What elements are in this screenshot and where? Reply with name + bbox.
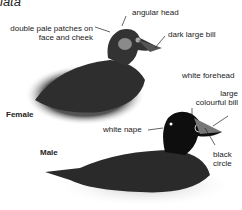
- label-pale-patches-line2: face and cheek: [3, 33, 93, 42]
- label-pale-patches-line1: double pale patches on: [3, 24, 93, 33]
- label-bill-line1: large: [180, 89, 238, 98]
- label-white-forehead: white forehead: [182, 71, 234, 80]
- label-black-circle-line1: black: [213, 150, 232, 159]
- label-dark-bill: dark large bill: [168, 30, 216, 39]
- label-female: Female: [6, 110, 34, 119]
- label-male: Male: [40, 148, 58, 157]
- label-black-circle-line2: circle: [213, 159, 232, 168]
- label-angular-head: angular head: [132, 8, 179, 17]
- page-title: iata: [0, 0, 21, 9]
- female-duck-image: [25, 29, 162, 125]
- label-white-nape: white nape: [103, 125, 142, 134]
- label-bill-line2: colourful bill: [180, 98, 238, 107]
